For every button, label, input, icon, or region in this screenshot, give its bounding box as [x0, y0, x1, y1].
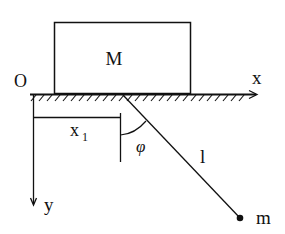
angle-label: φ	[136, 137, 145, 156]
length-label: l	[200, 146, 205, 167]
y-axis-label: y	[44, 194, 54, 215]
origin-label: O	[14, 71, 27, 91]
pendulum-rod	[123, 95, 240, 218]
angle-arc	[121, 121, 147, 135]
displacement-label: x	[70, 120, 79, 140]
bob-mass-point	[237, 215, 244, 222]
diagram-svg: M O x y x 1 φ l m	[0, 0, 285, 234]
pendulum-on-block-diagram: M O x y x 1 φ l m	[0, 0, 285, 234]
block-rectangle	[55, 23, 191, 94]
bob-mass-label: m	[256, 207, 271, 228]
x-axis-label: x	[252, 67, 262, 88]
block-mass-label: M	[106, 48, 123, 69]
ground-hatching	[31, 95, 244, 101]
displacement-subscript: 1	[82, 130, 88, 144]
